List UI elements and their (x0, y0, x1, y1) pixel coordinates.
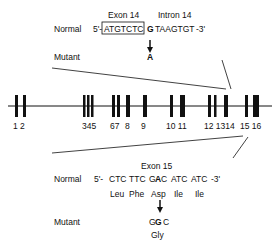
exon-number: 8 (125, 122, 130, 131)
gene-diagram-graphics (0, 0, 280, 251)
normal-label: Normal (54, 25, 81, 34)
amino-acid: Leu (110, 190, 124, 199)
exon-number: 10 11 (166, 122, 187, 131)
mutated-base: G (147, 25, 154, 34)
exon-number: 67 (110, 122, 119, 131)
exon-number: 9 (141, 122, 146, 131)
suffix: -3' (196, 25, 205, 34)
amino-acid: Asp (151, 190, 166, 199)
codon: ATC (191, 175, 207, 184)
exon14-label: Exon 14 (108, 11, 139, 20)
mutant-label: Mutant (54, 218, 80, 227)
codon: TTC (129, 175, 146, 184)
exon-number: 1 2 (13, 122, 25, 131)
amino-acid: Phe (129, 190, 144, 199)
exon-number: 345 (82, 122, 96, 131)
intron-seq: TAAGTGT (155, 25, 195, 34)
amino-acid: Ile (195, 190, 204, 199)
codon: C (161, 175, 167, 184)
mutant-base: G (155, 218, 162, 227)
exon-number: 12 1314 (204, 122, 235, 131)
mutant-base: A (147, 53, 153, 62)
arrow-down-icon (157, 207, 163, 213)
suffix: -3' (211, 175, 220, 184)
normal-label: Normal (54, 175, 81, 184)
amino-acid: Ile (174, 190, 183, 199)
mutant-label: Mutant (54, 53, 80, 62)
exon-seq: ATGTCTC (104, 25, 144, 34)
exon15-label: Exon 15 (141, 162, 172, 171)
mutant-amino-acid: Gly (151, 231, 164, 240)
prefix: 5'- (94, 175, 103, 184)
prefix: 5'- (93, 25, 102, 34)
codon: CTC (109, 175, 126, 184)
mutant-codon-base: C (163, 218, 169, 227)
codon: ATC (171, 175, 187, 184)
intron14-label: Intron 14 (158, 11, 192, 20)
exon-number: 15 16 (240, 122, 261, 131)
